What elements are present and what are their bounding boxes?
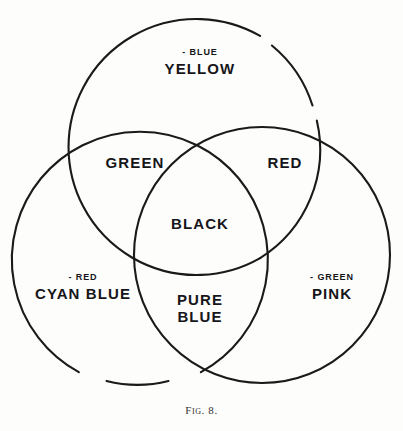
region-label-black: BLACK [140,215,260,233]
region-label-green: GREEN [75,154,195,172]
region-label-cyan-blue: - RED CYAN BLUE [8,272,158,302]
left-circle-arc-segment [107,381,169,385]
region-label-red-main: RED [225,154,345,172]
region-label-pure-blue-line2: BLUE [140,309,260,326]
region-label-yellow-main: YELLOW [140,60,260,78]
region-label-pink: - GREEN PINK [272,272,392,302]
region-label-black-main: BLACK [140,215,260,233]
region-label-pure-blue: PURE BLUE [140,292,260,326]
region-label-red: RED [225,154,345,172]
region-label-cyan-blue-main: CYAN BLUE [8,285,158,303]
region-label-pure-blue-line1: PURE [140,292,260,309]
top-circle-arc-segment [272,46,313,106]
figure-caption: Fig. 8. [0,404,403,416]
region-label-pink-minor: - GREEN [272,272,392,283]
region-label-cyan-blue-minor: - RED [8,272,158,283]
top-circle-arc-tail [260,121,320,259]
figure-container: - BLUE YELLOW GREEN RED BLACK - RED CYAN… [0,0,403,431]
region-label-pink-main: PINK [272,285,392,303]
region-label-yellow: - BLUE YELLOW [140,47,260,77]
region-label-green-main: GREEN [75,154,195,172]
region-label-yellow-minor: - BLUE [140,47,260,58]
